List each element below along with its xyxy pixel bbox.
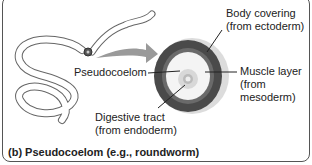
label-pseudocoelom: Pseudocoelom — [74, 66, 147, 79]
label-digestive-origin: (from endoderm) — [95, 124, 177, 137]
label-muscle-origin-1: (from — [240, 78, 266, 91]
label-body-covering: Body covering — [226, 7, 296, 20]
label-muscle-layer: Muscle layer — [240, 65, 302, 78]
figure-caption: (b) Pseudocoelom (e.g., roundworm) — [8, 146, 199, 158]
label-digestive-tract: Digestive tract — [95, 111, 165, 124]
cross-section — [154, 38, 229, 114]
label-body-covering-origin: (from ectoderm) — [226, 20, 304, 33]
arrow-icon — [96, 43, 158, 63]
label-muscle-origin-2: mesoderm) — [240, 91, 296, 104]
